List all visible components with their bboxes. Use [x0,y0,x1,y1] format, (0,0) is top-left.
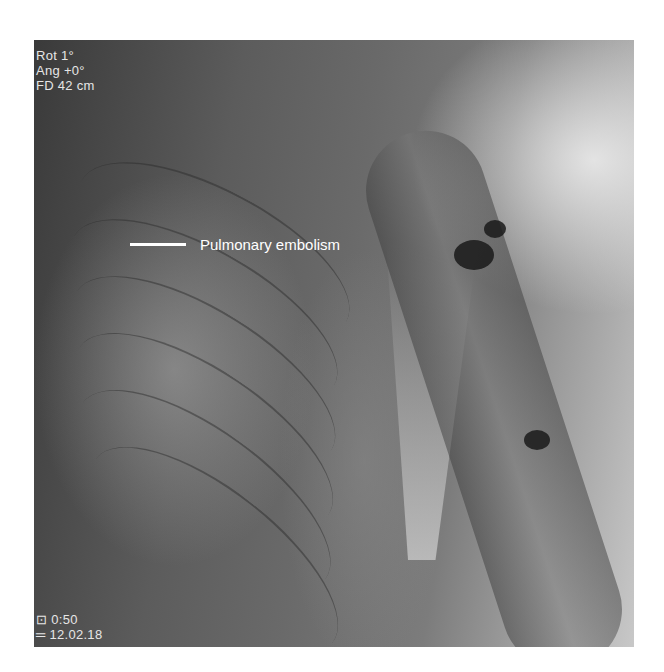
overlay-bottom-left: ⊡ 0:50 ═ 12.02.18 [36,612,102,642]
annotation-pointer-line [130,243,186,246]
contrast-clot [524,430,550,450]
field-distance-value: FD 42 cm [36,78,95,93]
overlay-top-left: Rot 1° Ang +0° FD 42 cm [36,48,95,93]
xray-image: Rot 1° Ang +0° FD 42 cm ⊡ 0:50 ═ 12.02.1… [34,40,634,647]
annotation: Pulmonary embolism [130,236,340,253]
angulation-value: Ang +0° [36,63,95,78]
duration-value: ⊡ 0:50 [36,612,102,627]
date-value: ═ 12.02.18 [36,627,102,642]
annotation-label: Pulmonary embolism [200,236,340,253]
contrast-clot [484,220,506,238]
rotation-value: Rot 1° [36,48,95,63]
humerus-shadow [350,115,634,647]
contrast-clot [454,240,494,270]
